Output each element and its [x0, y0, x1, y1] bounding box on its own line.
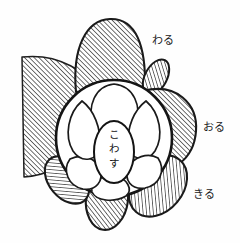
- label-oru: おる: [203, 121, 226, 134]
- center-label-char-2: す: [109, 157, 119, 169]
- diagram-canvas: こ わ す わる おる きる: [0, 0, 240, 243]
- petal-diagram: こ わ す わる おる きる: [0, 0, 240, 243]
- label-waru: わる: [152, 34, 175, 47]
- label-kiru: きる: [193, 188, 216, 201]
- center-label-char-1: わ: [109, 142, 119, 154]
- center-label-char-0: こ: [109, 128, 119, 140]
- center-label: こ わ す: [109, 128, 119, 169]
